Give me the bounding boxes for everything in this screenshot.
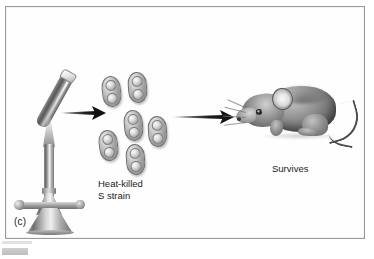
bacterium-lobe-bottom (132, 89, 144, 101)
burner-inlet-left-tip (14, 200, 24, 210)
arrow-shaft (60, 111, 96, 115)
burner-conical-base (28, 208, 72, 232)
bacterium-lobe-top (127, 114, 139, 126)
mouse-tail-tip (327, 128, 355, 148)
test-tube (35, 69, 76, 130)
bacterium-lobe-top (102, 133, 114, 145)
bacterium-lobe-top (105, 79, 117, 91)
bacterium-lobe-bottom (103, 146, 115, 158)
bacteria-label-line-2: S strain (98, 190, 143, 202)
bacterium-cell (97, 129, 120, 162)
bacterium-lobe-bottom (130, 161, 142, 173)
survives-label: Survives (272, 163, 308, 174)
figure-panel: Heat-killed S strain Survives (c) (0, 0, 374, 259)
bacterium-lobe-top (131, 76, 143, 88)
panel-label: (c) (14, 216, 26, 227)
burner-base-rim (26, 230, 74, 235)
scan-artifact-edge (2, 241, 32, 244)
bacterium-lobe-bottom (128, 127, 140, 139)
bacterium-cell (127, 71, 148, 103)
scan-artifact (2, 248, 28, 255)
bacterium-cell (100, 75, 122, 108)
bacterium-lobe-top (151, 120, 163, 132)
heat-killed-s-strain-label: Heat-killed S strain (98, 178, 143, 202)
burner-gas-inlet-arm (16, 202, 84, 209)
bacterium-cell (125, 143, 146, 175)
bacterium-cell (147, 116, 168, 148)
mouse-eye (256, 109, 262, 115)
mouse-illustration (236, 74, 358, 152)
burner-inlet-right-tip (76, 200, 85, 209)
bacterium-lobe-top (129, 148, 141, 160)
heat-killed-s-strain-bacteria-cluster (98, 72, 178, 172)
bunsen-burner-illustration (14, 62, 94, 234)
bacterium-cell (123, 109, 145, 142)
bacterium-lobe-bottom (152, 133, 164, 145)
bacterium-lobe-bottom (106, 92, 118, 104)
arrow-bacteria-to-mouse (172, 110, 234, 124)
arrow-shaft (172, 115, 224, 119)
mouse-ear-inner (276, 92, 291, 108)
bacteria-label-line-1: Heat-killed (98, 178, 143, 190)
